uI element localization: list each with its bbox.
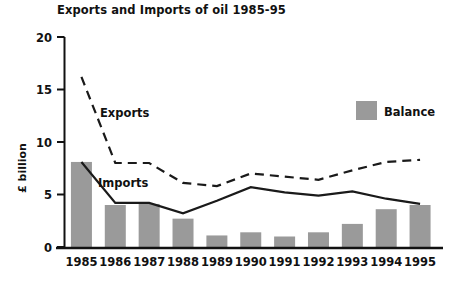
x-axis-tick-label: 1995 [404, 255, 436, 269]
y-axis-title: £ billion [16, 143, 29, 193]
bar-1985 [71, 162, 92, 247]
bar-1994 [376, 209, 397, 247]
bar-1987 [139, 204, 160, 247]
balance-bar-series [71, 162, 431, 247]
x-axis-tick-label: 1994 [370, 255, 402, 269]
chart-page: Exports and Imports of oil 1985-95 05101… [0, 0, 452, 283]
exports-line [81, 77, 420, 186]
bar-1993 [342, 224, 363, 247]
x-axis-tick-label: 1990 [235, 255, 267, 269]
series-annotations: ExportsImports [98, 106, 150, 190]
x-axis-tick-label: 1992 [302, 255, 334, 269]
bar-1989 [206, 235, 227, 247]
x-axis-tick-label: 1987 [133, 255, 165, 269]
x-axis-tick-label: 1993 [336, 255, 368, 269]
bar-1990 [240, 232, 261, 247]
y-axis-tick-label: 10 [36, 136, 52, 150]
y-axis-tick-label: 15 [36, 83, 52, 97]
x-axis-tick-label: 1986 [99, 255, 131, 269]
bar-1991 [274, 237, 295, 248]
oil-exports-imports-chart: 05101520 £ billion 198519861987198819891… [0, 0, 452, 283]
y-axis-tick-label: 0 [44, 241, 52, 255]
legend-swatch-balance [356, 101, 377, 120]
bar-1992 [308, 232, 329, 247]
y-axis-tick-label: 5 [44, 188, 52, 202]
y-axis-tick-label: 20 [36, 31, 52, 45]
x-axis-tick-label: 1985 [65, 255, 97, 269]
series-label-imports: Imports [98, 176, 149, 190]
y-axis-tick-labels: 05101520 [36, 31, 52, 255]
chart-legend: Balance [356, 101, 435, 120]
x-axis-tick-label: 1989 [201, 255, 233, 269]
y-axis-ticks [57, 37, 65, 247]
bar-1995 [410, 205, 431, 247]
x-axis-tick-label: 1988 [167, 255, 199, 269]
bar-1988 [173, 219, 194, 247]
bar-1986 [105, 205, 126, 247]
x-axis-tick-labels: 1985198619871988198919901991199219931994… [65, 255, 436, 269]
x-axis-tick-label: 1991 [269, 255, 301, 269]
series-label-exports: Exports [100, 106, 150, 120]
legend-label-balance: Balance [384, 105, 435, 119]
